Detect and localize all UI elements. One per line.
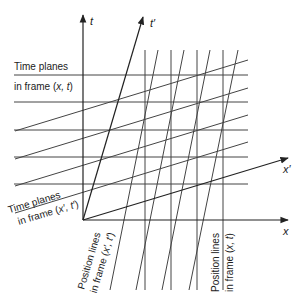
svg-text:in frame (x, t): in frame (x, t)	[224, 233, 235, 292]
t-axis-label: t	[90, 15, 94, 27]
t-prime-axis	[83, 17, 143, 220]
x-axis-label: x	[282, 225, 289, 237]
t-prime-axis-label: t′	[150, 17, 156, 29]
label-time-planes-xt: Time planes in frame (x, t)	[14, 61, 73, 92]
label-position-lines-xpt: Position lines in frame (x′, t′)	[75, 227, 116, 294]
svg-text:Time planes: Time planes	[14, 61, 68, 72]
x-prime-axis-label: x′	[282, 163, 292, 175]
axes	[83, 15, 288, 220]
svg-text:in frame (x, t): in frame (x, t)	[14, 81, 73, 92]
spacetime-diagram: t t′ x x′ Time planes in frame (x, t) Ti…	[0, 0, 303, 307]
x-prime-axis	[83, 158, 288, 220]
label-time-planes-xpt: Time planes in frame (x′, t′)	[7, 185, 80, 229]
svg-text:Position lines: Position lines	[210, 233, 221, 292]
